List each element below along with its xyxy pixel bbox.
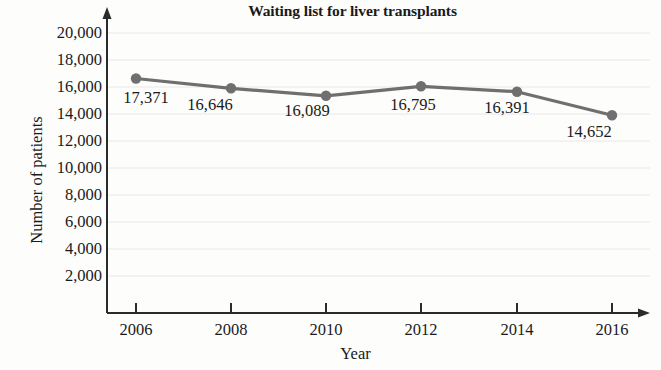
data-point [416, 81, 426, 91]
data-point [226, 83, 236, 93]
data-point-label: 16,646 [155, 97, 265, 114]
x-axis-title: Year [0, 344, 661, 364]
data-point-label: 16,089 [252, 103, 362, 120]
y-axis-title: Number of patients [27, 50, 47, 310]
data-point [512, 87, 522, 97]
x-tick-label: 2012 [381, 322, 461, 339]
y-tick-label: 20,000 [16, 25, 102, 42]
data-point [131, 73, 141, 83]
x-tick-label: 2016 [572, 322, 652, 339]
y-axis [103, 7, 112, 313]
x-tick-label: 2008 [191, 322, 271, 339]
x-axis [107, 303, 650, 318]
x-tick-label: 2006 [96, 322, 176, 339]
data-point [321, 91, 331, 101]
gridlines [107, 33, 650, 276]
data-point-label: 14,652 [534, 124, 644, 141]
x-tick-label: 2014 [477, 322, 557, 339]
x-tick-label: 2010 [286, 322, 366, 339]
chart-container: Waiting list for liver transplants [0, 0, 661, 370]
data-point-label: 16,391 [452, 100, 562, 117]
data-point [607, 110, 617, 120]
